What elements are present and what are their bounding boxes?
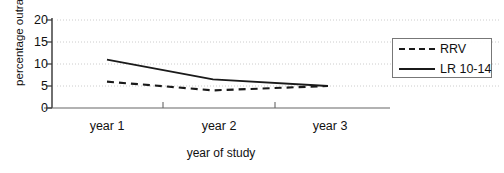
dashed-line-icon bbox=[399, 48, 435, 50]
legend-item-lr-10-14: LR 10-14 bbox=[393, 59, 493, 79]
axis-lines bbox=[44, 18, 390, 108]
legend-item-rrv: RRV bbox=[393, 39, 493, 59]
legend-label-lr-10-14: LR 10-14 bbox=[440, 62, 491, 76]
legend: RRV LR 10-14 bbox=[392, 38, 492, 78]
legend-label-rrv: RRV bbox=[440, 42, 466, 56]
chart-container: percentage outrage 20 15 10 5 0 bbox=[0, 0, 504, 173]
x-axis-title: year of study bbox=[52, 146, 390, 160]
x-tick-label-year-1: year 1 bbox=[51, 119, 163, 133]
x-tick-label-year-3: year 3 bbox=[274, 119, 386, 133]
x-axis-ticks bbox=[163, 102, 275, 108]
solid-line-icon bbox=[399, 68, 435, 70]
x-tick-label-year-2: year 2 bbox=[163, 119, 275, 133]
y-axis-ticks bbox=[46, 20, 52, 108]
